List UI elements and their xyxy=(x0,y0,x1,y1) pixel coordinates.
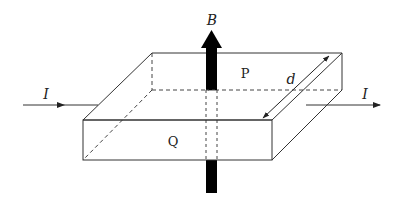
b-arrow-head xyxy=(201,30,222,48)
label-current-in: I xyxy=(42,86,49,102)
current-in-arrowhead xyxy=(57,102,65,108)
label-d: d xyxy=(287,71,296,87)
label-P: P xyxy=(241,66,250,81)
b-arrow-shaft-bottom xyxy=(206,160,217,193)
label-Q: Q xyxy=(168,134,179,149)
hall-effect-diagram: B I I P Q d xyxy=(0,0,401,208)
right-bottom-edge xyxy=(272,90,342,160)
hidden-left-bottom-edge xyxy=(83,90,152,160)
width-d-arrow xyxy=(263,56,329,118)
b-arrow-shaft-overlay xyxy=(206,47,217,90)
current-out-arrowhead xyxy=(373,102,381,108)
label-current-out: I xyxy=(361,86,368,102)
label-B: B xyxy=(206,12,217,28)
